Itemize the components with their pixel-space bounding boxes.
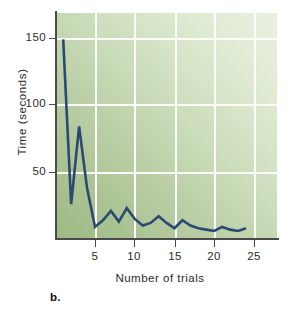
plot-area	[57, 13, 277, 238]
y-ticklabel-150: 150	[26, 31, 46, 43]
gridline-x-5	[95, 13, 97, 238]
gridline-y-150	[57, 38, 277, 40]
y-axis-line	[55, 11, 57, 240]
y-ticklabel-100: 100	[26, 97, 46, 109]
x-ticklabel-25: 25	[242, 250, 266, 262]
gridline-y-100	[57, 104, 277, 106]
x-tick-15	[175, 240, 176, 247]
x-tick-20	[214, 240, 215, 247]
y-tick-50	[49, 172, 57, 173]
x-tick-10	[134, 240, 135, 247]
figure-panel-b: 150 100 50 5 10 15 20 25 Time (seconds) …	[0, 0, 292, 309]
y-ticklabel-50: 50	[32, 165, 46, 177]
x-axis-line	[55, 238, 279, 240]
gridline-x-25	[254, 13, 256, 238]
panel-letter-label: b.	[50, 291, 61, 303]
gridline-x-20	[214, 13, 216, 238]
y-tick-150	[49, 38, 57, 39]
x-tick-25	[254, 240, 255, 247]
y-tick-100	[49, 104, 57, 105]
x-ticklabel-20: 20	[202, 250, 226, 262]
x-axis-label: Number of trials	[90, 272, 230, 284]
y-axis-label: Time (seconds)	[16, 37, 28, 187]
x-ticklabel-5: 5	[83, 250, 107, 262]
x-tick-5	[95, 240, 96, 247]
x-ticklabel-15: 15	[163, 250, 187, 262]
x-ticklabel-10: 10	[122, 250, 146, 262]
gridline-x-10	[134, 13, 136, 238]
gridline-y-50	[57, 172, 277, 174]
gridline-x-15	[175, 13, 177, 238]
